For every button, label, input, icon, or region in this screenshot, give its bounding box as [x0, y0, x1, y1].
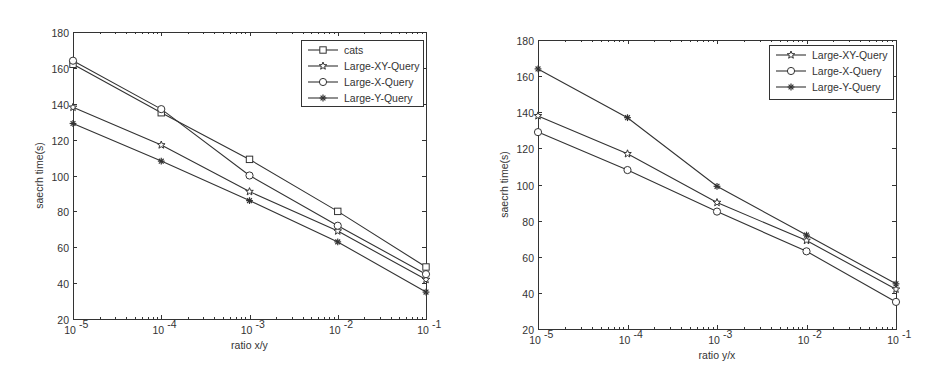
x-tick-label-exponent: -5 — [544, 328, 553, 340]
x-axis-label: ratio y/x — [699, 349, 737, 361]
legend-label: Large-Y-Query — [344, 92, 413, 104]
x-tick-label: 10 — [619, 334, 631, 346]
circle-marker-icon — [787, 67, 794, 74]
asterisk-marker-icon — [158, 158, 165, 165]
chart-left-search-time-vs-ratio-xy: 2040608010012014016018010-510-410-310-21… — [33, 27, 441, 352]
asterisk-marker-icon — [714, 183, 721, 190]
series-line — [538, 132, 896, 302]
asterisk-marker-icon — [334, 238, 341, 245]
x-tick-label-exponent: -5 — [79, 318, 88, 330]
series-large-xy-query — [534, 112, 900, 293]
y-tick-label: 80 — [57, 206, 69, 218]
x-tick-label: 10 — [529, 334, 541, 346]
legend-label: Large-XY-Query — [344, 60, 420, 72]
circle-marker-icon — [624, 166, 631, 173]
y-tick-label: 120 — [51, 135, 69, 147]
y-tick-label: 120 — [516, 143, 534, 155]
x-tick-label: 10 — [417, 324, 429, 336]
x-tick-label: 10 — [152, 324, 164, 336]
legend-label: Large-Y-Query — [812, 81, 881, 93]
square-marker-icon — [246, 156, 252, 162]
x-tick-label: 10 — [887, 334, 899, 346]
asterisk-marker-icon — [423, 289, 430, 296]
asterisk-marker-icon — [535, 66, 542, 73]
y-tick-label: 160 — [51, 63, 69, 75]
y-tick-label: 80 — [522, 216, 534, 228]
y-tick-label: 180 — [516, 35, 534, 47]
series-large-x-query — [534, 129, 899, 306]
figure-canvas: 2040608010012014016018010-510-410-310-21… — [0, 0, 934, 384]
series-line — [73, 124, 426, 293]
x-tick-label: 10 — [64, 324, 76, 336]
y-axis-label: saecrh time(s) — [498, 151, 510, 218]
star-marker-icon — [246, 188, 254, 195]
circle-marker-icon — [534, 129, 541, 136]
y-tick-label: 160 — [516, 71, 534, 83]
x-tick-label-exponent: -2 — [813, 328, 822, 340]
series-large-xy-query — [69, 103, 430, 282]
legend-label: Large-X-Query — [812, 65, 882, 77]
star-marker-icon — [713, 199, 721, 206]
x-tick-label-exponent: -2 — [344, 318, 353, 330]
legend-label: Large-X-Query — [344, 76, 414, 88]
circle-marker-icon — [69, 57, 76, 64]
square-marker-icon — [320, 47, 326, 53]
circle-marker-icon — [319, 78, 326, 85]
circle-marker-icon — [334, 222, 341, 229]
circle-marker-icon — [158, 106, 165, 113]
x-tick-label-exponent: -3 — [723, 328, 732, 340]
circle-marker-icon — [892, 298, 899, 305]
asterisk-marker-icon — [320, 95, 327, 102]
circle-marker-icon — [246, 172, 253, 179]
x-tick-label-exponent: -3 — [256, 318, 265, 330]
x-tick-label: 10 — [708, 334, 720, 346]
legend-label: cats — [344, 44, 363, 56]
x-tick-label-exponent: -1 — [432, 318, 441, 330]
series-large-y-query — [70, 120, 430, 295]
x-tick-label: 10 — [798, 334, 810, 346]
x-tick-label: 10 — [329, 324, 341, 336]
y-tick-label: 60 — [522, 252, 534, 264]
x-tick-label-exponent: -4 — [634, 328, 643, 340]
asterisk-marker-icon — [893, 280, 900, 287]
y-tick-label: 100 — [51, 171, 69, 183]
series-line — [538, 69, 896, 284]
y-tick-label: 60 — [57, 242, 69, 254]
x-tick-label-exponent: -1 — [902, 328, 911, 340]
legend: Large-XY-QueryLarge-X-QueryLarge-Y-Query — [769, 45, 893, 99]
y-tick-label: 100 — [516, 180, 534, 192]
y-axis-label: saecrh time(s) — [33, 142, 45, 209]
asterisk-marker-icon — [624, 114, 631, 121]
x-axis-label: ratio x/y — [231, 339, 269, 351]
circle-marker-icon — [803, 248, 810, 255]
y-tick-label: 40 — [522, 288, 534, 300]
circle-marker-icon — [422, 271, 429, 278]
x-tick-label-exponent: -4 — [167, 318, 176, 330]
star-marker-icon — [157, 141, 165, 148]
asterisk-marker-icon — [803, 232, 810, 239]
y-tick-label: 140 — [51, 99, 69, 111]
y-tick-label: 140 — [516, 107, 534, 119]
square-marker-icon — [423, 264, 429, 270]
circle-marker-icon — [713, 208, 720, 215]
x-tick-label: 10 — [241, 324, 253, 336]
asterisk-marker-icon — [788, 84, 795, 91]
square-marker-icon — [335, 208, 341, 214]
asterisk-marker-icon — [246, 197, 253, 204]
y-tick-label: 180 — [51, 27, 69, 39]
y-tick-label: 40 — [57, 278, 69, 290]
legend-label: Large-XY-Query — [812, 49, 888, 61]
chart-right-search-time-vs-ratio-yx: 2040608010012014016018010-510-410-310-21… — [498, 35, 911, 362]
asterisk-marker-icon — [70, 120, 77, 127]
legend: catsLarge-XY-QueryLarge-X-QueryLarge-Y-Q… — [301, 40, 423, 106]
star-marker-icon — [624, 150, 632, 157]
